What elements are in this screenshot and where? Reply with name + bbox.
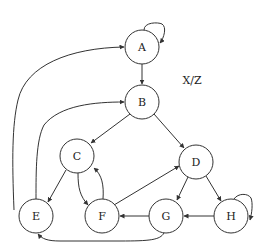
node-c-label: C [73,150,81,163]
state-diagram: A B C D E F G H X/Z [0,0,262,250]
annotation-label: X/Z [182,74,202,87]
edge-d-g [177,177,188,200]
edge-f-c [94,168,103,199]
node-e-label: E [32,210,40,223]
node-b-label: B [138,96,146,109]
node-d: D [179,145,213,179]
edge-b-c [91,114,130,143]
edge-c-e [48,170,66,202]
node-g-label: G [162,210,171,223]
node-g: G [149,199,183,233]
edge-c-f [78,173,88,205]
node-e: E [19,199,53,233]
node-a: A [125,30,159,64]
node-h: H [214,199,248,233]
node-f: F [85,199,119,233]
edge-b-d [154,114,184,148]
edge-d-h [206,176,221,201]
node-f-label: F [98,210,106,223]
edge-g-e [38,233,164,241]
node-b: B [125,85,159,119]
node-h-label: H [226,210,236,223]
edge-e-a [13,47,124,210]
node-c: C [60,139,94,173]
node-d-label: D [192,156,201,169]
node-a-label: A [137,41,147,54]
